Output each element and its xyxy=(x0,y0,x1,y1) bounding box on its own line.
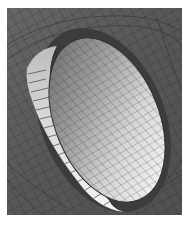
mesh-svg xyxy=(7,8,182,215)
mesh-render xyxy=(7,8,182,215)
